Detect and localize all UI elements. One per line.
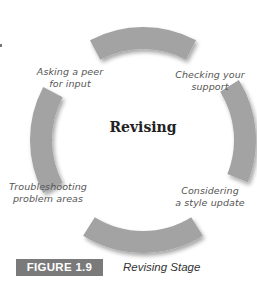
label-considering-style: Considering a style update [168, 185, 252, 209]
label-troubleshooting: Troubleshooting problem areas [5, 181, 91, 205]
revising-cycle-diagram [0, 0, 257, 284]
label-line: a style update [168, 197, 252, 209]
arc-segment-bottom [83, 217, 203, 253]
label-line: Checking your [170, 69, 250, 81]
label-line: Troubleshooting [5, 181, 91, 193]
arc-segment-right [220, 80, 256, 182]
label-line: Considering [168, 185, 252, 197]
label-line: Asking a peer [30, 66, 110, 78]
label-line: problem areas [5, 193, 91, 205]
arc-segment-left [30, 87, 63, 193]
label-checking-support: Checking your support [170, 69, 250, 93]
label-line: for input [30, 78, 110, 90]
figure-number-badge: FIGURE 1.9 [16, 259, 103, 276]
figure-caption: Revising Stage [123, 259, 200, 276]
label-line: support [170, 81, 250, 93]
label-asking-peer: Asking a peer for input [30, 66, 110, 90]
diagram-title: Revising [93, 119, 193, 135]
arc-segment-top [90, 27, 196, 60]
